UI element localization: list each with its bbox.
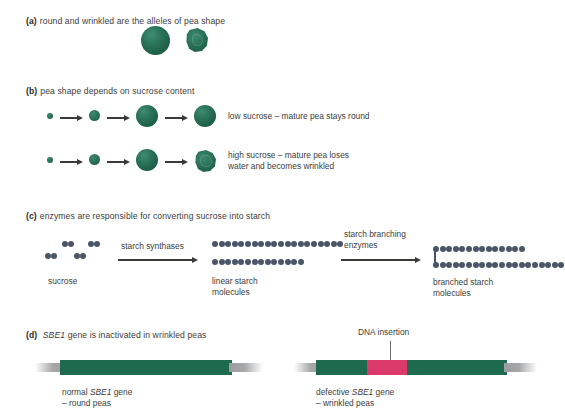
branched-starch-chain-top	[433, 246, 525, 252]
panel-b-heading: (b)pea shape depends on sucrose content	[26, 86, 194, 96]
panel-d-tag: (d)	[26, 330, 37, 340]
pea-stage-small	[89, 110, 100, 121]
defective-gene-caption-post: gene	[373, 387, 394, 397]
sucrose-dot	[80, 253, 86, 259]
defective-gene-caption: defective SBE1 gene– wrinkled peas	[316, 387, 394, 409]
starch-branching-enzymes-label: starch branching enzymes	[344, 229, 406, 251]
panel-d-heading-text: gene is inactivated in wrinkled peas	[68, 330, 207, 340]
dna-insertion-label: DNA insertion	[358, 327, 409, 338]
panel-c-tag: (c)	[26, 211, 37, 221]
normal-gene-caption-line2: – round peas	[62, 398, 111, 408]
normal-gene-caption-gene: SBE1	[90, 387, 111, 397]
pea-wrinkled-allele	[186, 28, 208, 52]
panel-b-heading-text: pea shape depends on sucrose content	[40, 86, 194, 96]
sucrose-label: sucrose	[48, 276, 77, 287]
pea-stage-small	[89, 154, 100, 165]
sucrose-dot	[68, 241, 74, 247]
gene-coding-region	[60, 360, 232, 375]
panel-d-gene-name: SBE1	[43, 330, 65, 340]
pea-stage-tiny	[47, 113, 53, 119]
sucrose-dot	[51, 253, 57, 259]
gene-tail-right	[229, 363, 263, 372]
starch-synthases-label: starch synthases	[121, 241, 184, 252]
gene-dna-insertion	[367, 360, 407, 375]
normal-gene-diagram	[35, 360, 267, 375]
gene-tail-right	[504, 363, 537, 372]
gene-coding-region-right	[407, 360, 507, 375]
panel-a-tag: (a)	[26, 16, 37, 26]
panel-a-heading: (a)round and wrinkled are the alleles of…	[26, 16, 225, 26]
normal-gene-caption-post: gene	[111, 387, 132, 397]
linear-starch-chain-bottom	[212, 259, 304, 265]
gene-coding-region-left	[316, 360, 367, 375]
normal-gene-caption: normal SBE1 gene– round peas	[62, 387, 132, 409]
pea-stage-tiny	[47, 157, 53, 163]
pea-stage-mature-round	[194, 105, 216, 127]
dna-insertion-pointer	[390, 341, 391, 361]
panel-c-heading: (c)enzymes are responsible for convertin…	[26, 211, 270, 221]
defective-gene-diagram	[294, 360, 539, 375]
low-sucrose-caption: low sucrose – mature pea stays round	[228, 111, 370, 122]
defective-gene-caption-gene: SBE1	[352, 387, 373, 397]
panel-d-heading: (d) SBE1 gene is inactivated in wrinkled…	[26, 330, 206, 340]
pea-round-allele	[141, 26, 170, 55]
panel-b-tag: (b)	[26, 86, 37, 96]
branched-starch-chain-bottom	[433, 262, 565, 268]
linear-starch-chain-top	[212, 241, 344, 247]
defective-gene-caption-line2: – wrinkled peas	[316, 398, 374, 408]
panel-c-heading-text: enzymes are responsible for converting s…	[40, 211, 270, 221]
pea-stage-large	[136, 105, 158, 127]
branched-starch-label: branched starch molecules	[433, 277, 493, 299]
normal-gene-caption-pre: normal	[62, 387, 90, 397]
pea-stage-mature-wrinkled	[195, 150, 216, 172]
panel-a-heading-text: round and wrinkled are the alleles of pe…	[40, 16, 225, 26]
defective-gene-caption-pre: defective	[316, 387, 352, 397]
high-sucrose-caption: high sucrose – mature pea loses water an…	[228, 150, 349, 172]
sucrose-dot	[94, 241, 100, 247]
linear-starch-label: linear starch molecules	[212, 276, 258, 298]
pea-stage-large	[136, 149, 158, 171]
